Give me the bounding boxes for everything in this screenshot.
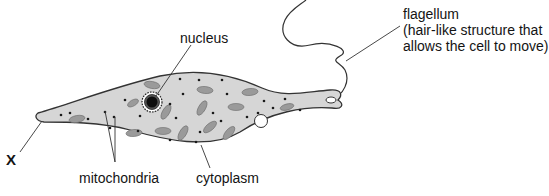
x-pointer: [20, 121, 42, 152]
mitochondria-label: mitochondria: [79, 170, 159, 186]
contractile-vacuole: [255, 115, 268, 128]
cytoplasm-pointer: [201, 145, 210, 168]
flagellum-strand: [283, 0, 347, 100]
nucleus-label: nucleus: [180, 30, 228, 46]
flagellum-label: flagellum: [403, 6, 459, 22]
x-marker-label: X: [6, 152, 16, 168]
cell-body: [36, 72, 342, 142]
flagellum-desc-line2: allows the cell to move): [403, 38, 549, 54]
flagellum-pointer: [346, 26, 400, 61]
flagellum-base-icon: [326, 97, 336, 103]
cytoplasm-label: cytoplasm: [196, 170, 259, 186]
flagellum-desc-line1: (hair-like structure that: [403, 22, 542, 38]
nucleus: [142, 92, 162, 112]
